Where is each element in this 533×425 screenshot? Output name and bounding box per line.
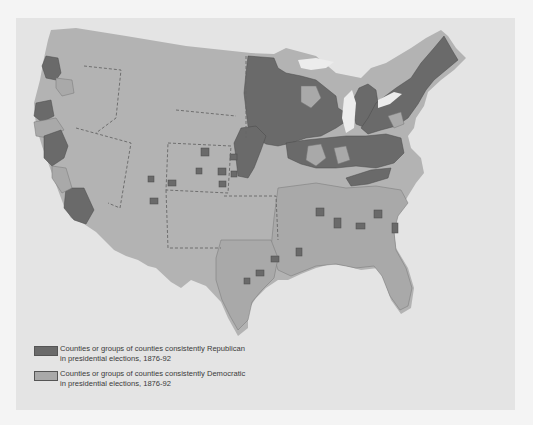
republican-county xyxy=(244,278,250,284)
republican-county xyxy=(196,168,202,174)
republican-county xyxy=(374,210,382,218)
legend-item-republican: Counties or groups of counties consisten… xyxy=(34,344,245,364)
republican-county xyxy=(218,168,226,175)
legend-label-republican-line2: in presidential elections, 1876-92 xyxy=(60,354,245,364)
legend-item-democratic: Counties or groups of counties consisten… xyxy=(34,369,245,389)
legend-label-republican-line1: Counties or groups of counties consisten… xyxy=(60,344,245,354)
legend-label-democratic-line2: in presidential elections, 1876-92 xyxy=(60,379,245,389)
republican-county xyxy=(168,180,176,186)
republican-county xyxy=(231,171,237,177)
republican-county xyxy=(334,218,341,228)
legend-swatch-republican xyxy=(34,346,58,356)
republican-county xyxy=(316,208,324,216)
legend-label-democratic-line1: Counties or groups of counties consisten… xyxy=(60,369,245,379)
republican-county xyxy=(392,223,398,233)
republican-county xyxy=(256,270,264,276)
republican-county xyxy=(201,148,209,156)
map-panel: Counties or groups of counties consisten… xyxy=(16,18,515,410)
republican-county xyxy=(356,223,365,229)
republican-county xyxy=(148,176,154,182)
republican-county xyxy=(219,181,226,187)
democratic-region-south xyxy=(271,183,412,310)
republican-county xyxy=(150,198,158,204)
republican-county xyxy=(271,256,279,262)
republican-county xyxy=(296,248,302,256)
legend-swatch-democratic xyxy=(34,371,58,381)
republican-county xyxy=(230,154,237,160)
